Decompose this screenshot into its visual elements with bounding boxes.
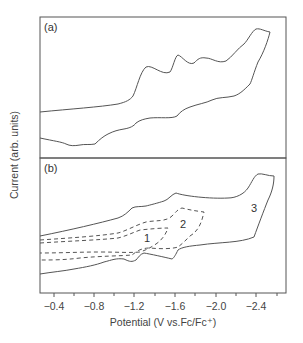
x-axis-ticks [54, 293, 277, 297]
curve-panel-a [40, 29, 270, 146]
panel-b-frame [40, 158, 286, 293]
panel-b-label: (b) [44, 162, 57, 174]
panel-a-frame [40, 17, 286, 158]
x-tick-label: −0.4 [44, 300, 65, 312]
curve-3-label: 3 [251, 202, 257, 214]
curve-1-label: 1 [144, 232, 150, 244]
x-tick-label: −1.6 [165, 300, 186, 312]
panel-a-label: (a) [44, 21, 57, 33]
x-tick-label: −2.0 [206, 300, 227, 312]
x-axis-label: Potential (V vs.Fc/Fc⁺) [40, 316, 286, 328]
curve-3 [40, 174, 274, 274]
y-axis-label: Current (arb. units) [8, 111, 20, 199]
x-tick-label: −1.2 [124, 300, 145, 312]
x-tick-label: −2.4 [246, 300, 267, 312]
curve-2-label: 2 [180, 218, 186, 230]
x-tick-label: −0.8 [84, 300, 105, 312]
